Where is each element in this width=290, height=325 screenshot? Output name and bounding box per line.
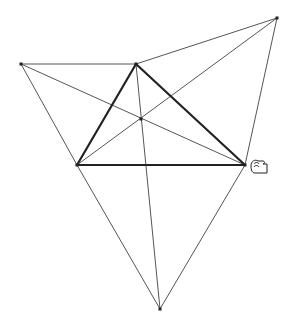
point-R[interactable]: [244, 164, 247, 167]
thin-lines: [21, 18, 277, 309]
points: [20, 17, 279, 311]
segment-BC: [136, 18, 277, 64]
edge-BL: [77, 64, 136, 165]
segment-CL: [77, 18, 277, 165]
point-C[interactable]: [276, 17, 279, 20]
segment-AR: [21, 64, 245, 165]
hand-cursor-icon: [251, 160, 267, 173]
point-B[interactable]: [135, 63, 138, 66]
point-A[interactable]: [20, 63, 23, 66]
point-L[interactable]: [76, 164, 79, 167]
segment-RD: [160, 165, 245, 309]
segment-AL: [21, 64, 77, 165]
point-D[interactable]: [159, 308, 162, 311]
segment-BD: [136, 64, 160, 309]
triangle-edges: [77, 64, 245, 165]
segment-CR: [245, 18, 277, 165]
geometry-diagram: [0, 0, 290, 325]
edge-BR: [136, 64, 245, 165]
point-M[interactable]: [140, 118, 143, 121]
